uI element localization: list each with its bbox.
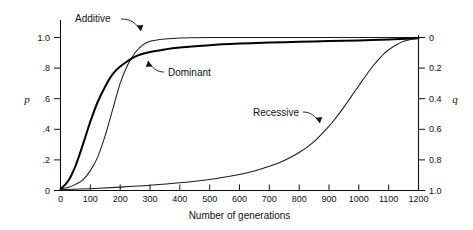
- x-tick-label: 900: [321, 194, 336, 204]
- arrowhead-dominant: [146, 61, 153, 67]
- annotation-label-dominant: Dominant: [168, 67, 211, 78]
- y-axis-left-ticks: 0 .2 .4 .6 .8 1.0: [37, 33, 60, 196]
- y-tick-label-right: 0.2: [429, 63, 442, 73]
- y-tick-label-left: 0: [45, 186, 50, 196]
- x-tick-label: 400: [172, 194, 187, 204]
- annotation-recessive: Recessive: [253, 107, 322, 123]
- y-tick-label-right: 0.8: [429, 155, 442, 165]
- x-tick-label: 500: [202, 194, 217, 204]
- annotation-label-recessive: Recessive: [253, 107, 300, 118]
- x-tick-label: 1100: [379, 194, 398, 204]
- annotation-dominant: Dominant: [146, 61, 211, 78]
- y-tick-label-left: .8: [42, 63, 50, 73]
- curve-additive: [61, 37, 419, 189]
- y-tick-label-left: .6: [42, 94, 50, 104]
- y-tick-label-right: 1.0: [429, 186, 442, 196]
- annotation-additive: Additive: [75, 13, 143, 31]
- y-tick-label-left: 1.0: [37, 33, 50, 43]
- y-tick-label-right: 0: [429, 33, 434, 43]
- x-tick-label: 0: [58, 194, 63, 204]
- x-axis-title: Number of generations: [189, 210, 291, 221]
- data-curves: [61, 37, 419, 189]
- y-tick-label-right: 0.4: [429, 94, 442, 104]
- x-tick-label: 600: [232, 194, 247, 204]
- curve-dominant: [61, 38, 419, 189]
- y-tick-label-right: 0.6: [429, 124, 442, 134]
- leader-line-dominant: [148, 61, 164, 72]
- y-axis-left-title: p: [23, 93, 30, 105]
- curve-recessive: [61, 38, 419, 189]
- x-tick-label: 300: [142, 194, 157, 204]
- x-tick-label: 1000: [349, 194, 369, 204]
- y-axis-right-ticks: 0 0.2 0.4 0.6 0.8 1.0: [419, 33, 442, 196]
- leader-line-additive: [121, 19, 141, 31]
- y-tick-label-left: .2: [42, 155, 50, 165]
- annotation-label-additive: Additive: [75, 13, 111, 24]
- x-tick-label: 800: [292, 194, 307, 204]
- x-tick-label: 100: [83, 194, 98, 204]
- y-tick-label-left: .4: [42, 124, 50, 134]
- population-genetics-chart: 0 .2 .4 .6 .8 1.0 p 0 0.2 0.4 0.6 0.8 1.…: [0, 0, 473, 230]
- x-tick-label: 200: [113, 194, 128, 204]
- y-axis-right-title: q: [452, 93, 458, 105]
- x-tick-label: 1200: [408, 194, 428, 204]
- x-tick-label: 700: [262, 194, 277, 204]
